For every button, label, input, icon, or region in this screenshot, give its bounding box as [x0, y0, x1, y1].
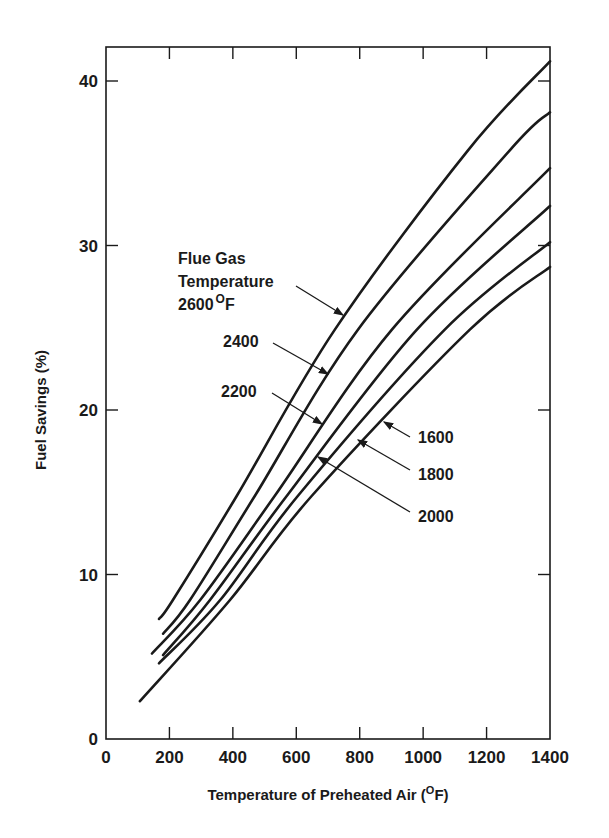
y-axis-title: Fuel Savings (%) [32, 350, 49, 470]
annotation-label-2400: 2400 [223, 333, 259, 350]
annotation-label-2200: 2200 [221, 383, 257, 400]
axis-tick-labels: 0200400600800100012001400010203040 [79, 72, 569, 767]
y-tick-label: 0 [89, 730, 98, 749]
curve-1600 [140, 267, 550, 701]
annotation-title-line2: Temperature [178, 273, 274, 290]
x-tick-label: 1200 [468, 748, 506, 767]
annotation-label-2000: 2000 [418, 508, 454, 525]
arrow-2600 [296, 286, 343, 315]
axis-ticks [106, 47, 550, 739]
x-tick-label: 1400 [531, 748, 569, 767]
annotation-label-1800: 1800 [418, 466, 454, 483]
arrow-1800 [358, 440, 410, 470]
y-tick-label: 10 [79, 566, 98, 585]
plot-frame [106, 47, 550, 739]
x-tick-label: 0 [101, 748, 110, 767]
arrow-2000 [318, 457, 410, 512]
y-tick-label: 20 [79, 401, 98, 420]
y-tick-label: 30 [79, 237, 98, 256]
fuel-savings-chart: 0200400600800100012001400010203040 Tempe… [0, 0, 609, 838]
annotation-label-2600: 2600OF [178, 292, 235, 313]
curve-2600 [159, 61, 550, 619]
x-tick-label: 1000 [404, 748, 442, 767]
arrow-2400 [273, 343, 328, 374]
curve-2400 [163, 112, 550, 633]
annotation-title-line1: Flue Gas [178, 250, 246, 267]
x-tick-label: 400 [219, 748, 247, 767]
annotation-label-1600: 1600 [418, 429, 454, 446]
y-tick-label: 40 [79, 72, 98, 91]
x-tick-label: 200 [155, 748, 183, 767]
x-axis-title: Temperature of Preheated Air (OF) [207, 784, 448, 803]
x-tick-label: 600 [282, 748, 310, 767]
arrow-1600 [384, 422, 410, 437]
x-tick-label: 800 [346, 748, 374, 767]
data-curves [140, 61, 550, 701]
